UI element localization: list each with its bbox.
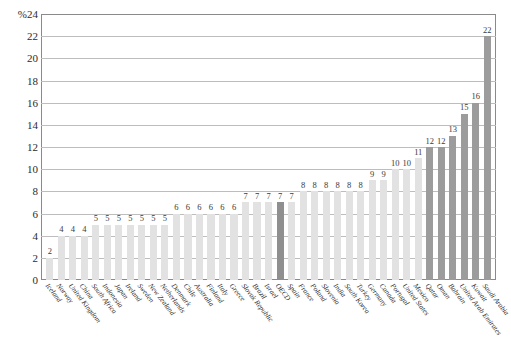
bar [219,214,226,281]
x-label-slot: Qatar [424,281,436,350]
bar [449,136,456,280]
bar-value-label: 5 [128,214,132,223]
bar-value-label: 8 [347,181,351,190]
bar-slot: 5 [113,14,125,280]
bar-slot: 5 [159,14,171,280]
bar [346,191,353,280]
bar-value-label: 5 [105,214,109,223]
bar-slot: 13 [447,14,459,280]
bar-value-label: 12 [426,137,435,146]
bar [438,147,445,280]
y-tick-label: 20 [27,52,38,64]
bar-value-label: 7 [278,192,282,201]
bar-value-label: 7 [289,192,293,201]
bar-slot: 7 [240,14,252,280]
bar-value-label: 7 [243,192,247,201]
x-label-slot: Iceland [44,281,56,350]
bar [115,225,122,280]
bar-value-label: 16 [472,92,481,101]
bar-slot: 8 [320,14,332,280]
bar [253,202,260,280]
bar [161,225,168,280]
bar-value-label: 2 [48,247,52,256]
bar [81,236,88,280]
bar-slot: 10 [389,14,401,280]
bar-value-label: 15 [460,103,469,112]
x-label-slot: Italy [217,281,229,350]
bar-slot: 7 [263,14,275,280]
bar-value-label: 9 [382,170,386,179]
x-label-slot: France [297,281,309,350]
y-tick-label: 18 [27,75,38,87]
bar-value-label: 5 [140,214,144,223]
bar-value-label: 12 [437,137,446,146]
bar-value-label: 13 [449,125,458,134]
bar-slot: 16 [470,14,482,280]
bar-slot: 5 [102,14,114,280]
bar [173,214,180,281]
bar-value-label: 8 [359,181,363,190]
bar [69,236,76,280]
bar [207,214,214,281]
bar-slot: 5 [90,14,102,280]
bar [92,225,99,280]
bar [288,202,295,280]
y-tick-label: 12 [27,141,38,153]
bar [311,191,318,280]
bar [127,225,134,280]
bar [472,103,479,280]
x-label-slot: United Kingdom [67,281,79,350]
bar-slot: 5 [148,14,160,280]
x-label-slot: Kuwait [470,281,482,350]
plot-area: 2444555555566666677777888888991010111212… [41,14,496,280]
bar [369,180,376,280]
bar-slot: 8 [355,14,367,280]
bar [426,147,433,280]
bar-value-label: 5 [163,214,167,223]
y-tick-label: 6 [33,208,39,220]
bar-value-label: 5 [94,214,98,223]
bar [242,202,249,280]
bar-value-label: 11 [414,148,422,157]
bar-slot: 8 [297,14,309,280]
y-tick-label: 10 [27,163,38,175]
bar-slot: 4 [56,14,68,280]
bar-value-label: 4 [59,225,63,234]
x-tick-label: Saudi Arabia [481,282,511,317]
x-label-slot: Canada [378,281,390,350]
bar-slot: 12 [424,14,436,280]
bar-slot: 9 [366,14,378,280]
x-label-slot: South Korea [343,281,355,350]
bar [300,191,307,280]
x-label-slot: OECD [274,281,286,350]
bar [357,191,364,280]
x-label-slot: Saudi Arabia [482,281,494,350]
bar-value-label: 7 [255,192,259,201]
bar-slot: 11 [413,14,425,280]
y-tick-label: 16 [27,97,38,109]
y-tick-label: %24 [18,8,38,20]
y-tick-label: 0 [33,274,39,286]
x-label-slot: Slovenia [320,281,332,350]
bar-value-label: 6 [209,203,213,212]
x-axis-category-labels: IcelandNorwayUnited KingdomChinaSouth Af… [41,281,496,350]
bar [196,214,203,281]
bar-value-label: 8 [301,181,305,190]
x-label-slot: Ireland [125,281,137,350]
x-label-slot: United Arab Emirates [459,281,471,350]
bar [403,169,410,280]
bar-slot: 7 [274,14,286,280]
bar [415,158,422,280]
bar-slot: 8 [309,14,321,280]
x-label-slot: Greece [228,281,240,350]
bar-value-label: 10 [402,159,411,168]
y-axis-tick-labels: %242220181614121086420 [0,14,38,280]
x-label-slot: Japan [113,281,125,350]
x-label-slot: Bahrain [447,281,459,350]
bar-value-label: 8 [312,181,316,190]
x-label-slot: South Africa [90,281,102,350]
x-label-slot: Australia [194,281,206,350]
bar-value-label: 9 [370,170,374,179]
bar-value-label: 22 [483,26,492,35]
bar-value-label: 5 [117,214,121,223]
